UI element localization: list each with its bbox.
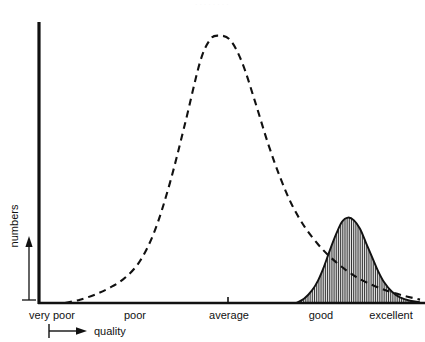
distribution-chart: · · · · · · · · numbers very poor poor a… bbox=[0, 0, 425, 342]
chart-canvas: · · · · · · · · numbers very poor poor a… bbox=[0, 0, 425, 342]
x-tick-label-average: average bbox=[209, 309, 249, 321]
x-axis-label-group: quality bbox=[49, 324, 126, 338]
x-tick-label-excellent: excellent bbox=[369, 309, 412, 321]
x-tick-label-good: good bbox=[309, 309, 333, 321]
solid-curve-hatch-fill bbox=[296, 23, 420, 303]
x-axis-arrow-head bbox=[76, 327, 87, 334]
x-axis-label: quality bbox=[94, 325, 126, 337]
x-tick-label-poor: poor bbox=[124, 309, 146, 321]
y-axis-label-group: numbers bbox=[8, 204, 36, 300]
y-axis-arrow-head bbox=[25, 236, 32, 247]
dashed-distribution-curve bbox=[65, 36, 420, 303]
y-axis-label: numbers bbox=[8, 204, 20, 247]
faint-top-mark: · · · · · · · · bbox=[195, 1, 229, 7]
x-tick-label-very-poor: very poor bbox=[29, 309, 75, 321]
